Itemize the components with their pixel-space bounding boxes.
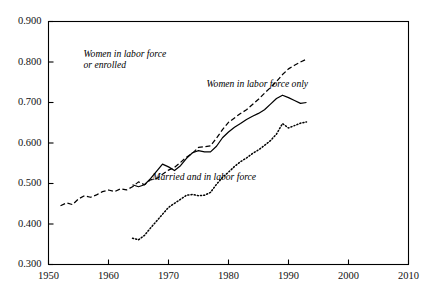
chart-plot-area [0, 0, 434, 307]
x-tick-label: 1970 [139, 270, 199, 281]
y-tick-label: 0.400 [2, 218, 42, 229]
series-annotation-1: Women in labor force or enrolled [84, 48, 234, 71]
x-tick-label: 1960 [79, 270, 139, 281]
x-tick-label: 1950 [19, 270, 79, 281]
x-tick-label: 2000 [319, 270, 379, 281]
y-tick-label: 0.800 [2, 56, 42, 67]
series-annotation-2: Women in labor force only [207, 78, 357, 90]
y-tick-label: 0.500 [2, 177, 42, 188]
y-tick-label: 0.600 [2, 137, 42, 148]
y-tick-label: 0.700 [2, 96, 42, 107]
y-tick-label: 0.300 [2, 258, 42, 269]
chart-figure: 0.3000.4000.5000.6000.7000.8000.900 1950… [0, 0, 434, 307]
y-tick-label: 0.900 [2, 15, 42, 26]
series-annotation-3: Married and in labor force [153, 171, 303, 183]
x-tick-label: 1980 [199, 270, 259, 281]
x-tick-label: 1990 [259, 270, 319, 281]
x-tick-label: 2010 [379, 270, 434, 281]
